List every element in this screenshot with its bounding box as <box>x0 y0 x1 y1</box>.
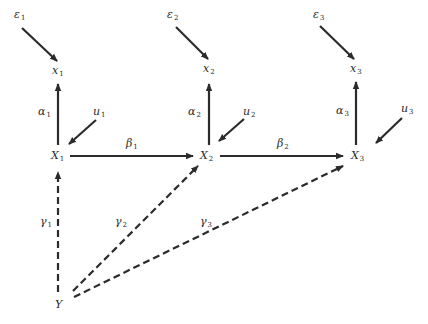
label-gamma-1: γ1 <box>40 216 52 229</box>
label-gamma-2: γ2 <box>115 216 127 229</box>
node-X2: X2 <box>200 150 213 163</box>
node-x3: x3 <box>350 63 362 76</box>
path-diagram: ε1 ε2 ε3 x1 x2 x3 α1 α2 α3 u1 u2 u3 X1 X… <box>0 0 428 324</box>
edge-u3-X3 <box>376 118 402 143</box>
node-X3: X3 <box>351 150 364 163</box>
edge-e2-x2 <box>176 27 208 59</box>
node-epsilon-3: ε3 <box>313 9 324 22</box>
label-alpha-1: α1 <box>38 106 51 119</box>
edge-Y-X3 <box>74 166 343 297</box>
edge-Y-X2 <box>73 166 198 291</box>
label-gamma-3: γ3 <box>200 216 212 229</box>
node-x2: x2 <box>203 63 215 76</box>
node-X1: X1 <box>51 150 64 163</box>
node-u1: u1 <box>93 106 106 119</box>
label-alpha-3: α3 <box>336 105 349 118</box>
node-u2: u2 <box>243 106 256 119</box>
label-beta-1: β1 <box>126 138 138 151</box>
node-epsilon-1: ε1 <box>14 9 25 22</box>
edge-u1-X1 <box>69 120 96 144</box>
node-epsilon-2: ε2 <box>167 9 178 22</box>
edge-e1-x1 <box>22 28 57 61</box>
edge-u2-X2 <box>219 119 244 141</box>
label-beta-2: β2 <box>277 138 289 151</box>
node-u3: u3 <box>401 103 414 116</box>
label-alpha-2: α2 <box>188 106 201 119</box>
node-Y: Y <box>55 299 62 310</box>
edge-e3-x3 <box>320 26 354 59</box>
node-x1: x1 <box>52 65 64 78</box>
